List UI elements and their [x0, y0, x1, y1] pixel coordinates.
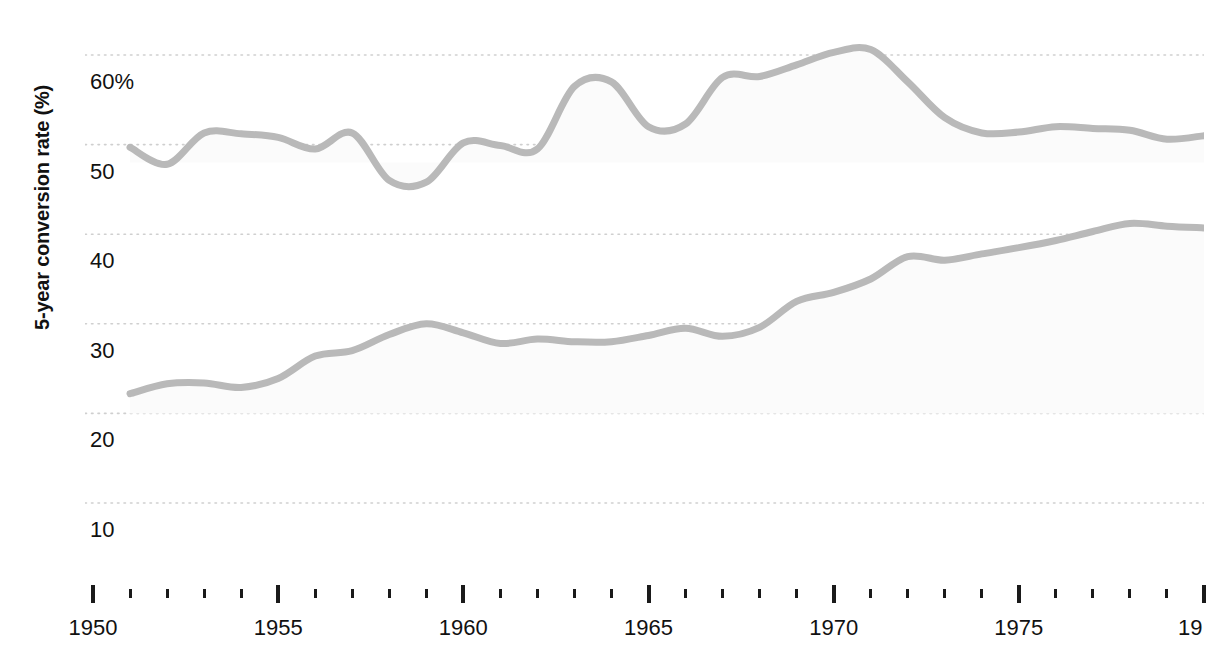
- x-tick-major: [91, 585, 95, 603]
- x-tick-minor: [980, 589, 983, 598]
- y-tick-label: 30: [90, 338, 180, 364]
- x-tick-minor: [906, 589, 909, 598]
- x-tick-major: [1202, 585, 1206, 603]
- series-fill-group: [130, 48, 1204, 414]
- plot-area: [85, 40, 1204, 515]
- x-tick-minor: [425, 589, 428, 598]
- x-tick-label: 1975: [994, 615, 1043, 641]
- x-tick-minor: [351, 589, 354, 598]
- x-tick-label: 1970: [809, 615, 858, 641]
- x-tick-minor: [573, 589, 576, 598]
- y-tick-label: 40: [90, 248, 180, 274]
- x-tick-label: 19: [1178, 615, 1202, 641]
- x-tick-minor: [1165, 589, 1168, 598]
- x-tick-minor: [388, 589, 391, 598]
- y-tick-label: 10: [90, 517, 180, 543]
- x-tick-label: 1960: [439, 615, 488, 641]
- x-tick-label: 1965: [624, 615, 673, 641]
- x-tick-minor: [869, 589, 872, 598]
- x-tick-major: [832, 585, 836, 603]
- x-tick-minor: [758, 589, 761, 598]
- y-tick-label: 50: [90, 159, 180, 185]
- x-tick-major: [461, 585, 465, 603]
- x-tick-minor: [1054, 589, 1057, 598]
- x-tick-label: 1955: [254, 615, 303, 641]
- series-fill-upper: [130, 48, 1204, 187]
- x-tick-minor: [240, 589, 243, 598]
- series-fill-lower: [130, 223, 1204, 413]
- x-tick-minor: [314, 589, 317, 598]
- x-tick-minor: [684, 589, 687, 598]
- x-tick-minor: [1128, 589, 1131, 598]
- x-tick-major: [276, 585, 280, 603]
- x-tick-label: 1950: [69, 615, 118, 641]
- x-tick-minor: [499, 589, 502, 598]
- chart-svg: [85, 40, 1204, 515]
- y-tick-label: 60%: [90, 69, 180, 95]
- x-tick-minor: [166, 589, 169, 598]
- x-tick-minor: [795, 589, 798, 598]
- x-tick-minor: [943, 589, 946, 598]
- x-tick-major: [647, 585, 651, 603]
- x-tick-minor: [203, 589, 206, 598]
- x-axis: 19501955196019651970197519: [0, 585, 1204, 655]
- y-tick-label: 20: [90, 427, 180, 453]
- x-tick-minor: [721, 589, 724, 598]
- x-tick-minor: [1091, 589, 1094, 598]
- series-line-upper: [130, 48, 1204, 187]
- x-tick-minor: [129, 589, 132, 598]
- y-axis-title: 5-year conversion rate (%): [31, 48, 54, 368]
- x-tick-major: [1017, 585, 1021, 603]
- x-tick-minor: [610, 589, 613, 598]
- x-tick-minor: [536, 589, 539, 598]
